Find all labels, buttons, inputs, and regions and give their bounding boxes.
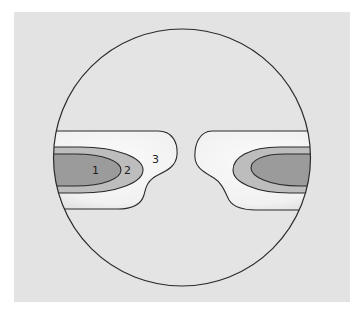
- circular-zone-diagram: 1 2 3: [0, 0, 364, 317]
- zone-2-label: 2: [124, 164, 131, 177]
- zone-3-label: 3: [152, 153, 159, 166]
- zone-1-label: 1: [92, 164, 99, 177]
